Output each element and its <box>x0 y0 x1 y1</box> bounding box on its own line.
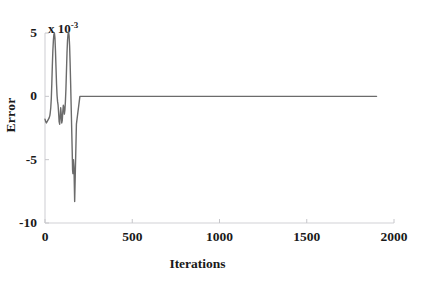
error-series-line <box>45 32 377 202</box>
x-tick-label: 0 <box>42 229 49 245</box>
x-tick-label: 1500 <box>293 229 320 245</box>
y-tick-label: -10 <box>0 215 37 231</box>
x-axis-title-text: Iterations <box>169 256 225 271</box>
tick-marks <box>45 33 394 223</box>
x-tick-label: 1000 <box>206 229 233 245</box>
x-tick-label: 500 <box>122 229 142 245</box>
x-tick-label: 2000 <box>381 229 408 245</box>
y-tick-label: -5 <box>0 152 37 168</box>
x-axis-title: Iterations <box>0 256 445 272</box>
chart-figure: · · · ·· ·· · · x 10-3 50-5-10 050010001… <box>0 0 445 281</box>
y-axis-title: Error <box>3 80 19 150</box>
axis-lines <box>45 33 394 223</box>
y-tick-label: 5 <box>0 25 37 41</box>
